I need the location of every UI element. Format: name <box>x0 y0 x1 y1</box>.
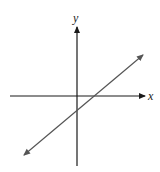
coordinate-plane: x y <box>0 0 160 172</box>
y-axis-label: y <box>72 11 79 25</box>
x-axis-label: x <box>147 89 154 103</box>
sloped-line <box>24 55 143 155</box>
